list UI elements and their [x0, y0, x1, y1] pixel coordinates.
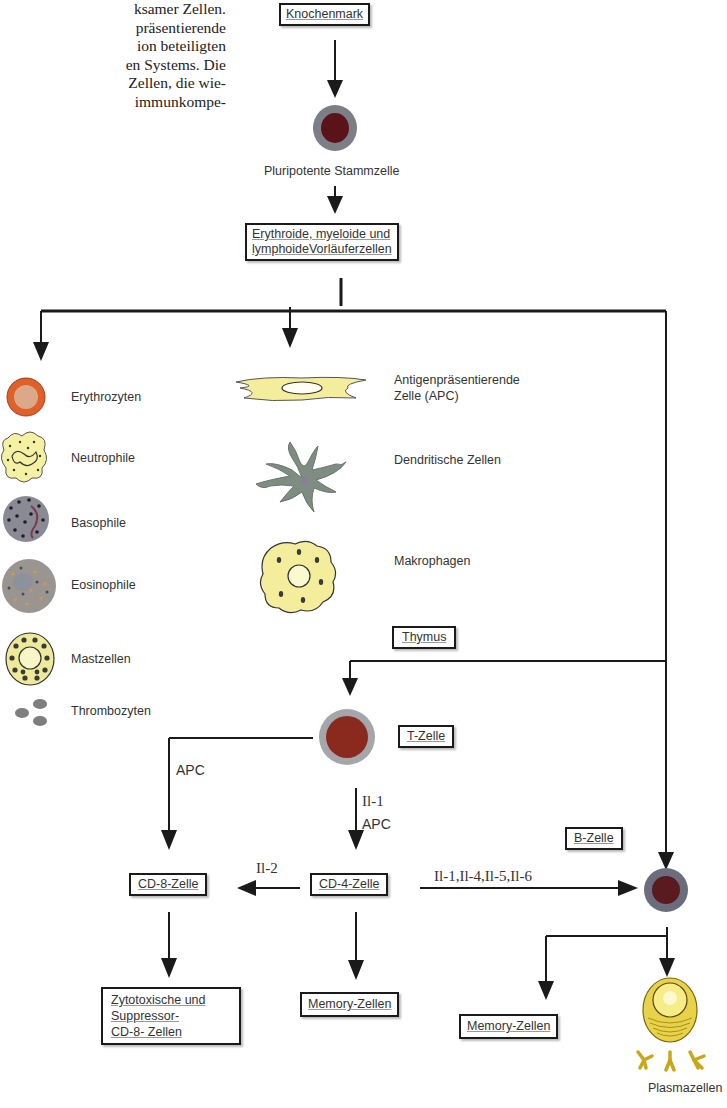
stem-cell-icon — [312, 103, 358, 153]
mast-cell-label: Mastzellen — [71, 652, 131, 667]
bone-marrow-box: Knochenmark — [279, 3, 370, 26]
apc-label-line2: Zelle (APC) — [394, 389, 459, 404]
apc-label-line1: Antigenpräsentierende — [394, 373, 520, 388]
progenitor-box: Erythroide, myeloide und lymphoideVorläu… — [245, 223, 399, 261]
cd4-cell-label: CD-4-Zelle — [319, 877, 379, 891]
antibody-icons — [632, 1048, 714, 1072]
il1-edge-label: Il-1 — [362, 793, 384, 810]
neutrophil-label: Neutrophile — [71, 451, 135, 466]
thrombocyte-icon — [14, 697, 54, 727]
t-cell-label: T-Zelle — [407, 729, 445, 743]
progenitor-label-line1: Erythroide, myeloide und — [252, 227, 392, 242]
b-cell-icon — [643, 867, 689, 913]
eosinophil-label: Eosinophile — [71, 578, 136, 593]
il2-edge-label: Il-2 — [256, 860, 278, 877]
erythrocyte-label: Erythrozyten — [71, 390, 141, 405]
erythrocyte-icon — [5, 376, 47, 418]
dendritic-cell-icon — [252, 440, 352, 515]
apc-edge-label-2: APC — [362, 817, 391, 832]
plasma-cell-label: Plasmazellen — [648, 1081, 722, 1096]
macrophage-label: Makrophagen — [394, 554, 470, 569]
t-cell-box: T-Zelle — [398, 725, 454, 748]
basophil-label: Basophile — [71, 516, 126, 531]
macrophage-icon — [257, 538, 339, 616]
eosinophil-icon — [1, 558, 57, 614]
memory-b-cells-box: Memory-Zellen — [459, 1014, 558, 1039]
interleukins-edge-label: Il-1,Il-4,Il-5,Il-6 — [434, 868, 532, 885]
cytotoxic-label-line2: Suppressor- — [111, 1008, 231, 1024]
arrowheads — [33, 80, 675, 1000]
t-cell-icon — [318, 708, 376, 766]
memory-t-cells-label: Memory-Zellen — [308, 997, 391, 1011]
b-cell-box: B-Zelle — [565, 827, 623, 850]
thrombocyte-label: Thrombozyten — [71, 704, 151, 719]
thymus-box: Thymus — [392, 626, 456, 649]
cd8-cell-label: CD-8-Zelle — [138, 877, 198, 891]
cd8-cell-box: CD-8-Zelle — [129, 873, 207, 896]
b-cell-label: B-Zelle — [574, 831, 614, 845]
progenitor-label-line2: lymphoideVorläuferzellen — [252, 242, 392, 257]
plasma-cell-icon — [640, 976, 700, 1046]
cytotoxic-label-line3: CD-8- Zellen — [111, 1024, 231, 1040]
cytotoxic-cells-box: Zytotoxische und Suppressor- CD-8- Zelle… — [101, 987, 241, 1045]
dendritic-cell-label: Dendritische Zellen — [394, 453, 501, 468]
thymus-label: Thymus — [402, 630, 446, 644]
mast-cell-icon — [5, 632, 55, 686]
apc-edge-label: APC — [176, 763, 205, 778]
memory-t-cells-box: Memory-Zellen — [300, 992, 399, 1017]
basophil-icon — [1, 494, 51, 544]
cytotoxic-label-line1: Zytotoxische und — [111, 992, 231, 1008]
apc-icon — [232, 372, 372, 404]
neutrophil-icon — [0, 428, 50, 486]
memory-b-cells-label: Memory-Zellen — [467, 1019, 550, 1033]
bone-marrow-label: Knochenmark — [286, 7, 363, 21]
stem-cell-label: Pluripotente Stammzelle — [264, 164, 399, 179]
cd4-cell-box: CD-4-Zelle — [310, 873, 388, 896]
